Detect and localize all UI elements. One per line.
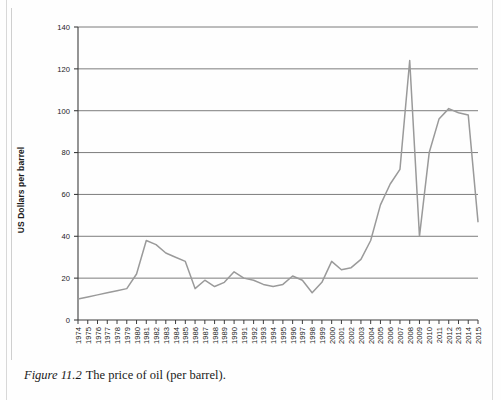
x-axis-labels-group: 1974197519761977197819791980198119821983… xyxy=(74,327,483,344)
x-axis-tick-label: 1980 xyxy=(133,327,142,344)
y-axis-tick-label: 60 xyxy=(62,190,70,199)
oil-price-line-chart: 020406080100120140 197419751976197719781… xyxy=(0,0,501,400)
x-axis-tick-label: 1985 xyxy=(181,327,190,344)
gridlines-group xyxy=(78,27,478,278)
y-axis-tick-label: 20 xyxy=(62,274,70,283)
x-axis-tick-label: 1987 xyxy=(201,327,210,344)
x-axis-tick-label: 2013 xyxy=(454,327,463,344)
x-axis-tick-label: 2000 xyxy=(328,327,337,344)
x-axis-tick-label: 1992 xyxy=(250,327,259,344)
y-axis-title-text: US Dollars per barrel xyxy=(16,147,26,234)
x-axis-tick-label: 1991 xyxy=(240,327,249,344)
figure-number: Figure 11.2 xyxy=(24,368,82,382)
figure-container: 020406080100120140 197419751976197719781… xyxy=(0,0,501,400)
y-axis-tick-label: 40 xyxy=(62,232,70,241)
x-axis-tick-label: 1976 xyxy=(94,327,103,344)
y-axis-tick-label: 0 xyxy=(66,316,70,325)
x-axis-tick-label: 1975 xyxy=(84,327,93,344)
x-axis-tick-label: 1990 xyxy=(230,327,239,344)
x-axis-tick-label: 1983 xyxy=(162,327,171,344)
x-axis-tick-label: 1996 xyxy=(289,327,298,344)
x-axis-tick-label: 2015 xyxy=(474,327,483,344)
x-axis-tick-label: 1997 xyxy=(298,327,307,344)
x-axis-tick-label: 2007 xyxy=(396,327,405,344)
x-axis-tick-label: 2005 xyxy=(376,327,385,344)
x-axis-tick-label: 2002 xyxy=(347,327,356,344)
x-axis-tick-label: 2006 xyxy=(386,327,395,344)
x-axis-tick-label: 1981 xyxy=(142,327,151,344)
x-axis-tick-label: 2004 xyxy=(367,327,376,344)
x-axis-tick-label: 1978 xyxy=(113,327,122,344)
x-axis-tick-label: 2001 xyxy=(337,327,346,344)
x-axis-tick-label: 2009 xyxy=(415,327,424,344)
x-axis-tick-label: 2011 xyxy=(435,327,444,343)
x-axis-tick-label: 1993 xyxy=(259,327,268,344)
y-axis-tick-label: 140 xyxy=(57,23,70,32)
x-axis-tick-label: 1999 xyxy=(318,327,327,344)
figure-caption: Figure 11.2The price of oil (per barrel)… xyxy=(24,368,226,383)
figure-caption-text: The price of oil (per barrel). xyxy=(86,368,226,382)
y-axis-title: US Dollars per barrel xyxy=(12,120,30,260)
y-axis-tick-label: 120 xyxy=(57,65,70,74)
x-axis-tick-label: 2008 xyxy=(406,327,415,344)
x-axis-tick-label: 1988 xyxy=(211,327,220,344)
x-axis-tick-label: 1995 xyxy=(279,327,288,344)
x-axis-tick-label: 2012 xyxy=(445,327,454,344)
x-axis-tick-label: 1986 xyxy=(191,327,200,344)
x-axis-tick-label: 2003 xyxy=(357,327,366,344)
y-axis-ticks-group: 020406080100120140 xyxy=(57,23,78,325)
page-background: 020406080100120140 197419751976197719781… xyxy=(0,0,501,400)
x-axis-tick-label: 1989 xyxy=(220,327,229,344)
x-axis-tick-label: 1984 xyxy=(172,327,181,344)
x-axis-tick-label: 1979 xyxy=(123,327,132,344)
x-axis-ticks-group xyxy=(78,320,478,324)
x-axis-tick-label: 2010 xyxy=(425,327,434,344)
y-axis-tick-label: 100 xyxy=(57,107,70,116)
x-axis-tick-label: 1977 xyxy=(103,327,112,344)
x-axis-tick-label: 1982 xyxy=(152,327,161,344)
x-axis-tick-label: 2014 xyxy=(464,327,473,344)
oil-price-series-line xyxy=(78,60,478,299)
x-axis-tick-label: 1998 xyxy=(308,327,317,344)
x-axis-tick-label: 1974 xyxy=(74,327,83,344)
y-axis-tick-label: 80 xyxy=(62,148,70,157)
x-axis-tick-label: 1994 xyxy=(269,327,278,344)
